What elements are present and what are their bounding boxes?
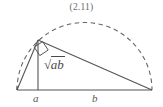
geometric-mean-figure: (2.11) √ab a b [0, 0, 163, 107]
radicand-ab: ab [51, 56, 65, 72]
semicircle-triangle-diagram [0, 0, 163, 107]
segment-label-a: a [33, 93, 39, 104]
altitude-label: √ab [44, 58, 65, 71]
segment-label-b: b [92, 93, 98, 104]
semicircle-arc-dashed [17, 22, 152, 90]
